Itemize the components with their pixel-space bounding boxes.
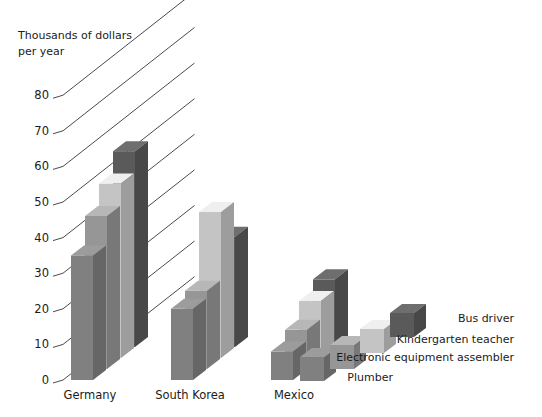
- bar-side-face: [207, 281, 220, 369]
- y-tick-label-80: 80: [34, 88, 49, 102]
- tickmark-60: [53, 166, 63, 169]
- x-axis-labels: Germany South Korea Mexico: [64, 388, 315, 402]
- y-tick-label-10: 10: [34, 337, 49, 351]
- y-tick-label-30: 30: [34, 266, 49, 280]
- legend-label-electronic-equipment-assembler: Electronic equipment assembler: [336, 351, 514, 364]
- legend-label-kindergarten-teacher: Kindergarten teacher: [397, 333, 515, 346]
- y-axis-title-line-1: Thousands of dollars: [17, 29, 132, 42]
- bar-side-face: [93, 245, 106, 380]
- tickmark-70: [53, 131, 63, 134]
- category-label-germany: Germany: [64, 388, 117, 402]
- y-tick-label-0: 0: [42, 373, 49, 387]
- tickmark-20: [53, 309, 63, 312]
- tickmark-0: [53, 380, 63, 383]
- y-tick-label-40: 40: [34, 231, 49, 245]
- y-tick-label-50: 50: [34, 195, 49, 209]
- legend-swatch-front: [360, 329, 384, 353]
- bar-chart-3d: 01020304050607080 Germany South Korea Me…: [0, 0, 542, 417]
- bar-south-korea-plumber: [171, 299, 206, 380]
- tickmark-80: [53, 95, 63, 98]
- tickmark-40: [53, 238, 63, 241]
- bar-side-face: [221, 202, 234, 358]
- bar-side-face: [135, 141, 148, 347]
- gridline-70: [63, 27, 195, 130]
- y-tick-label-20: 20: [34, 302, 49, 316]
- bar-germany-plumber: [71, 245, 106, 380]
- bar-side-face: [235, 227, 248, 347]
- bar-front-face: [71, 255, 93, 380]
- y-axis-title: Thousands of dollars per year: [17, 29, 132, 58]
- y-axis-title-line-2: per year: [18, 45, 65, 58]
- bar-side-face: [193, 299, 206, 380]
- bar-side-face: [107, 206, 120, 369]
- tickmark-10: [53, 344, 63, 347]
- y-axis-ticks: 01020304050607080: [34, 88, 63, 387]
- legend-label-bus-driver: Bus driver: [458, 312, 515, 325]
- bar-front-face: [271, 352, 293, 380]
- bars-layer: [71, 141, 426, 381]
- category-label-south-korea: South Korea: [155, 388, 225, 402]
- y-tick-label-70: 70: [34, 124, 49, 138]
- bar-front-face: [171, 309, 193, 380]
- bar-side-face: [335, 269, 348, 347]
- legend-swatch-front: [300, 357, 324, 381]
- gridline-80: [63, 0, 195, 95]
- category-label-mexico: Mexico: [274, 388, 314, 402]
- chart-page: 01020304050607080 Germany South Korea Me…: [0, 0, 542, 417]
- bar-side-face: [121, 174, 134, 358]
- y-tick-label-60: 60: [34, 159, 49, 173]
- tickmark-50: [53, 202, 63, 205]
- tickmark-30: [53, 273, 63, 276]
- legend-label-plumber: Plumber: [347, 371, 393, 384]
